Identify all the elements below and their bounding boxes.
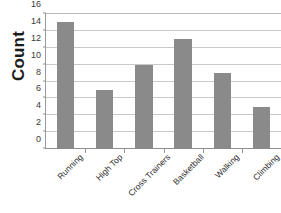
bars-group — [46, 14, 281, 149]
x-label-slot: Running — [45, 152, 84, 213]
bar-slot — [85, 14, 124, 149]
bar-slot — [164, 14, 203, 149]
bar — [253, 107, 270, 149]
bar — [214, 73, 231, 149]
x-axis-labels: RunningHigh TopCross TrainersBasketballW… — [45, 152, 281, 213]
y-tick-label: 10 — [31, 50, 41, 60]
bar — [96, 90, 113, 149]
bar-slot — [124, 14, 163, 149]
y-tick-label: 4 — [36, 100, 41, 110]
x-label-slot: Cross Trainers — [124, 152, 163, 213]
x-tick-label: High Top — [94, 152, 125, 183]
bar-slot — [203, 14, 242, 149]
bar-slot — [242, 14, 281, 149]
bar-chart: Count 0246810121416 RunningHigh TopCross… — [0, 0, 281, 213]
plot-area: 0246810121416 — [45, 13, 281, 149]
bar — [135, 65, 152, 149]
y-tick-label: 2 — [36, 117, 41, 127]
y-tick-label: 14 — [31, 16, 41, 26]
bar-slot — [46, 14, 85, 149]
y-tick-label: 0 — [36, 134, 41, 144]
y-axis-title: Count — [7, 11, 31, 101]
x-tick-label: Climbing — [251, 152, 281, 182]
y-tick-label: 16 — [31, 0, 41, 9]
bar — [57, 22, 74, 149]
x-label-slot: High Top — [84, 152, 123, 213]
bar — [174, 39, 191, 149]
x-label-slot: Walking — [202, 152, 241, 213]
y-tick-label: 12 — [31, 33, 41, 43]
x-tick-label: Basketball — [171, 152, 206, 187]
x-tick-label: Running — [55, 152, 84, 181]
x-label-slot: Basketball — [163, 152, 202, 213]
y-tick-label: 6 — [36, 83, 41, 93]
x-tick-label: Walking — [213, 152, 241, 180]
y-tick-label: 8 — [36, 67, 41, 77]
x-label-slot: Climbing — [242, 152, 281, 213]
